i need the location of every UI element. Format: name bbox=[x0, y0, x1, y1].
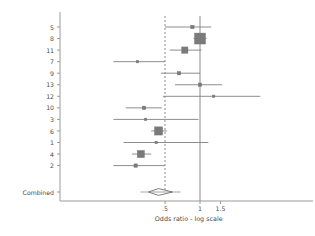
forest-row-3 bbox=[113, 118, 198, 121]
forest-row-11 bbox=[170, 47, 202, 53]
y-axis-label-3: 3 bbox=[50, 116, 54, 123]
forest-plot: 58117913121036142Combined.511.5Odds rati… bbox=[0, 0, 315, 236]
x-axis-tick-label-1.5: 1.5 bbox=[216, 205, 226, 212]
effect-marker-12 bbox=[212, 95, 215, 98]
y-axis-label-13: 13 bbox=[46, 81, 54, 88]
effect-marker-9 bbox=[177, 71, 181, 75]
effect-marker-3 bbox=[144, 118, 147, 121]
x-axis-title: Odds ratio - log scale bbox=[155, 215, 223, 223]
forest-row-9 bbox=[161, 71, 200, 75]
effect-marker-13 bbox=[198, 83, 202, 87]
forest-row-7 bbox=[113, 60, 165, 63]
forest-row-4 bbox=[132, 150, 151, 157]
effect-marker-6 bbox=[154, 127, 162, 135]
forest-row-13 bbox=[175, 83, 222, 87]
y-axis-label-2: 2 bbox=[50, 162, 54, 169]
y-axis-label-11: 11 bbox=[46, 47, 54, 54]
y-axis-label-7: 7 bbox=[50, 58, 54, 65]
forest-row-10 bbox=[126, 106, 162, 110]
y-axis-label-4: 4 bbox=[50, 151, 54, 158]
effect-marker-10 bbox=[142, 106, 146, 110]
forest-row-2 bbox=[113, 164, 165, 168]
effect-marker-4 bbox=[137, 150, 144, 157]
effect-marker-2 bbox=[134, 164, 138, 168]
effect-marker-8 bbox=[194, 33, 205, 44]
effect-marker-11 bbox=[182, 47, 188, 53]
effect-marker-7 bbox=[136, 60, 139, 63]
y-axis-label-10: 10 bbox=[46, 104, 54, 111]
effect-marker-1 bbox=[155, 141, 158, 144]
x-axis-tick-label-1: 1 bbox=[198, 205, 202, 212]
x-axis-tick-label-.5: .5 bbox=[162, 205, 168, 212]
y-axis-label-combined: Combined bbox=[23, 189, 55, 196]
y-axis-label-12: 12 bbox=[46, 93, 54, 100]
y-axis-label-5: 5 bbox=[50, 24, 54, 31]
y-axis-label-1: 1 bbox=[50, 139, 54, 146]
y-axis-label-6: 6 bbox=[50, 128, 54, 135]
forest-row-8 bbox=[194, 33, 207, 44]
y-axis-label-9: 9 bbox=[50, 70, 54, 77]
y-axis-label-8: 8 bbox=[50, 35, 54, 42]
effect-marker-5 bbox=[191, 25, 195, 29]
forest-row-12 bbox=[163, 95, 260, 98]
forest-row-5 bbox=[165, 25, 211, 29]
forest-row-1 bbox=[124, 141, 209, 144]
